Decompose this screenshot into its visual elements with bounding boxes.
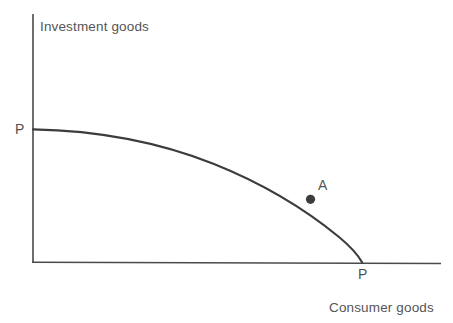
x-axis-line: [32, 262, 441, 263]
x-axis-label: Consumer goods: [329, 301, 434, 315]
ppf-plot-svg: [0, 0, 453, 323]
point-a-marker: [306, 195, 315, 204]
ppf-figure: Investment goods Consumer goods P P A: [0, 0, 453, 323]
y-axis-label: Investment goods: [40, 20, 149, 34]
x-intercept-label: P: [358, 267, 367, 281]
y-intercept-label: P: [15, 122, 24, 136]
point-a-label: A: [318, 178, 327, 192]
